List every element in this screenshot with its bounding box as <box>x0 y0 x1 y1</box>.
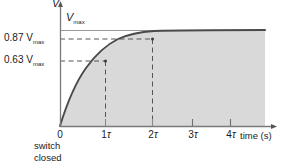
x-tick-label-4tau: 4τ <box>221 129 241 140</box>
marker-point-1tau <box>104 60 107 63</box>
vmax-asymptote-label-subscript: max <box>73 19 84 25</box>
y-tick-label-063-subscript: max <box>33 61 44 67</box>
switch-closed-annotation: switch closed <box>34 140 61 164</box>
x-tick-label-0: 0 <box>52 129 68 140</box>
x-tick-label-2tau: 2τ <box>143 129 163 140</box>
x-axis-label: time (s) <box>240 130 272 141</box>
y-tick-label-063-main: 0.63 V <box>4 54 33 65</box>
marker-point-2tau <box>151 38 154 41</box>
y-axis-label: V <box>52 0 59 9</box>
y-tick-label-087-subscript: max <box>33 39 44 45</box>
x-tick-label-1tau-unit: τ <box>107 129 111 140</box>
vmax-asymptote-label: Vmax <box>66 12 85 25</box>
charging-curve-figure: V Vmax 0.87 Vmax 0.63 Vmax 0 1τ 2τ 3τ 4τ… <box>0 0 290 168</box>
y-tick-label-063: 0.63 Vmax <box>4 55 44 67</box>
x-axis-arrowhead <box>271 124 277 129</box>
area-fill <box>60 30 265 126</box>
y-tick-label-087: 0.87 Vmax <box>4 33 44 45</box>
y-tick-label-087-main: 0.87 V <box>4 32 33 43</box>
x-tick-label-1tau: 1τ <box>96 129 116 140</box>
switch-closed-line-2: closed <box>34 152 61 164</box>
x-tick-label-2tau-unit: τ <box>154 129 158 140</box>
x-tick-label-3tau: 3τ <box>183 129 203 140</box>
x-tick-label-3tau-unit: τ <box>194 129 198 140</box>
switch-closed-line-1: switch <box>34 140 61 152</box>
x-tick-label-4tau-unit: τ <box>232 129 236 140</box>
